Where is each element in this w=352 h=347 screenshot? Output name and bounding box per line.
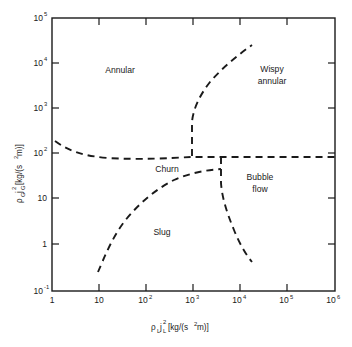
y-tick-label-1e3: 10 (34, 103, 44, 113)
y-tick-exp-100: 2 (44, 146, 47, 152)
x-axis-ticks (99, 18, 287, 291)
region-label-churn: Churn (155, 164, 179, 174)
x-tick-label-10: 10 (94, 295, 104, 305)
x-tick-label-1e4: 10 (232, 295, 242, 305)
chart-page: 1 10 10 2 10 3 10 4 10 5 10 6 10 -1 1 10… (0, 0, 352, 347)
x-tick-exp-1e4: 4 (243, 294, 247, 300)
x-tick-exp-1e6: 6 (337, 294, 340, 300)
x-tick-labels: 1 10 10 2 10 3 10 4 10 5 10 6 (50, 294, 341, 305)
y-axis-title-j-sup: 2 (11, 187, 17, 190)
y-axis-title-units-end: m)] (15, 144, 24, 156)
x-tick-label-1e6: 10 (326, 295, 336, 305)
y-tick-exp-1e4: 4 (44, 56, 48, 62)
flow-regime-map-chart: 1 10 10 2 10 3 10 4 10 5 10 6 10 -1 1 10… (0, 0, 352, 347)
region-label-bubble-flow-line1: Bubble (247, 172, 274, 182)
wispy-annular-boundary-curve (192, 45, 252, 156)
slug-churn-boundary-curve (98, 169, 221, 272)
y-tick-labels: 10 -1 1 10 10 2 10 3 10 4 10 5 (34, 11, 50, 296)
x-tick-exp-100: 2 (149, 294, 152, 300)
y-tick-label-100: 10 (34, 148, 44, 158)
y-axis-title-units: [kg/(s (15, 165, 24, 185)
y-axis-title-rho: ρ (15, 198, 24, 203)
region-label-slug: Slug (153, 227, 170, 237)
annular-churn-boundary-curve (55, 141, 335, 159)
x-tick-label-1e5: 10 (279, 295, 289, 305)
x-axis-title-j-sup: 2 (163, 319, 166, 325)
x-axis-title-units-end: m)] (197, 323, 209, 332)
y-axis-title-j: j (15, 191, 24, 194)
x-tick-exp-1e3: 3 (196, 294, 199, 300)
x-tick-label-1e3: 10 (185, 295, 195, 305)
x-tick-exp-1e5: 5 (290, 294, 293, 300)
x-axis-title-units: [kg/(s (168, 323, 188, 332)
y-tick-label-1e4: 10 (34, 58, 44, 68)
x-axis-title-j-sub: L (163, 328, 167, 334)
y-tick-exp-0p1: -1 (44, 284, 49, 290)
x-axis-title-rho: ρ (151, 323, 156, 332)
x-axis-title-j: j (159, 323, 162, 332)
y-axis-ticks (52, 63, 335, 244)
plot-frame (52, 18, 335, 291)
y-tick-label-10: 10 (38, 193, 48, 203)
y-tick-label-1e5: 10 (34, 13, 44, 23)
y-tick-label-1: 1 (42, 239, 47, 249)
x-tick-label-1: 1 (50, 295, 55, 305)
y-tick-exp-1e3: 3 (44, 101, 47, 107)
y-tick-label-0p1: 10 (34, 286, 44, 296)
x-axis-title: ρ L j L 2 [kg/(s 2 m)] (151, 319, 209, 334)
region-label-bubble-flow-line2: flow (252, 184, 268, 194)
region-label-annular: Annular (105, 65, 135, 75)
y-axis-title: ρ G j G 2 [kg/(s 2 m)] (11, 144, 26, 203)
region-label-wispy-annular-line2: annular (258, 76, 287, 86)
region-label-wispy-annular-line1: Wispy (260, 64, 284, 74)
x-tick-label-100: 10 (138, 295, 148, 305)
y-tick-exp-1e5: 5 (44, 11, 47, 17)
